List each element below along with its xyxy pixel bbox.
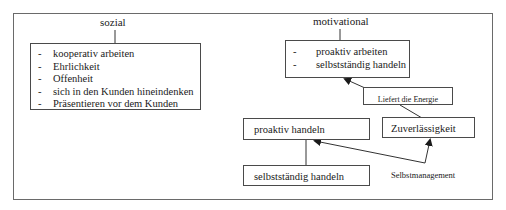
sozial-title: sozial (100, 16, 126, 28)
independent-label: selbstständig handeln (254, 171, 344, 182)
sozial-item: Ehrlichkeit (31, 61, 200, 74)
reliability-box: Zuverlässigkeit (382, 117, 475, 138)
sozial-item: Offenheit (31, 73, 200, 86)
sozial-list: kooperativ arbeiten Ehrlichkeit Offenhei… (31, 48, 200, 111)
proactive-label: proaktiv handeln (254, 124, 325, 135)
sozial-item: kooperativ arbeiten (31, 48, 200, 61)
sozial-item: Präsentieren vor dem Kunden (31, 98, 200, 111)
energy-label: Liefert die Energie (378, 95, 438, 104)
energy-box: Liefert die Energie (363, 87, 453, 105)
independent-box: selbstständig handeln (243, 165, 370, 186)
motivational-item: proaktiv arbeiten (286, 46, 409, 59)
motivational-item: selbstständig handeln (286, 59, 409, 72)
motivational-title: motivational (313, 15, 369, 27)
motivational-list: proaktiv arbeiten selbstständig handeln (286, 46, 409, 71)
proactive-box: proaktiv handeln (243, 118, 370, 140)
reliability-label: Zuverlässigkeit (391, 123, 456, 134)
motivational-box: proaktiv arbeiten selbstständig handeln (285, 40, 410, 78)
self-management-label: Selbstmanagement (391, 170, 455, 180)
sozial-box: kooperativ arbeiten Ehrlichkeit Offenhei… (30, 43, 201, 110)
sozial-item: sich in den Kunden hineindenken (31, 86, 200, 99)
